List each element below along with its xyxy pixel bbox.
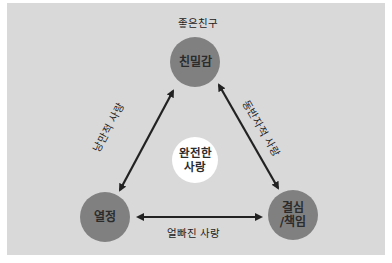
- node-commitment-line1: 결심: [282, 201, 304, 215]
- top-label-good-friend: 좋은친구: [178, 15, 218, 30]
- node-passion: 열정: [80, 192, 130, 242]
- arrow-left-romantic: [120, 91, 173, 190]
- node-consummate-line1: 완전한: [179, 146, 212, 160]
- node-commitment: 결심 /책임: [268, 190, 318, 240]
- node-consummate-line2: 사랑: [184, 160, 206, 174]
- node-intimacy: 친밀감: [170, 37, 220, 87]
- node-intimacy-label: 친밀감: [179, 55, 212, 69]
- edge-label-fatuous-love: 얼빠진 사랑: [167, 225, 220, 240]
- node-consummate-love: 완전한 사랑: [172, 137, 218, 183]
- node-commitment-line2: /책임: [280, 215, 306, 229]
- node-passion-label: 열정: [94, 210, 116, 224]
